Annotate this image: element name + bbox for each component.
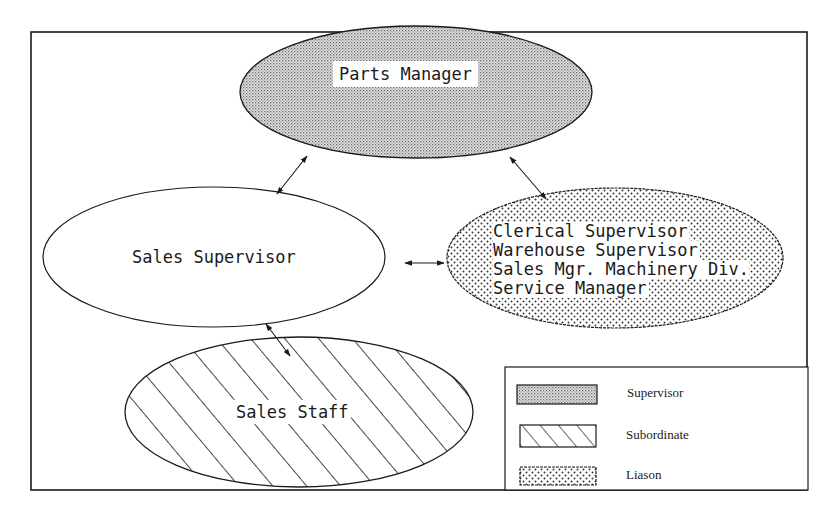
diagram-canvas: Parts Manager Sales Supervisor Clerical … [0,0,835,518]
parts-manager-label: Parts Manager [333,61,478,87]
parts-manager-node [240,26,592,158]
liaison-line-sales-mgr-machinery: Sales Mgr. Machinery Div. [493,260,749,279]
arrow-parts-manager-liaison [510,157,546,199]
arrow-parts-manager-sales-supervisor [277,156,307,194]
liaison-line-warehouse-supervisor: Warehouse Supervisor [493,241,700,260]
liaison-group-label: Clerical Supervisor Warehouse Supervisor… [493,222,749,298]
sales-supervisor-label: Sales Supervisor [132,247,296,267]
liaison-line-clerical-supervisor: Clerical Supervisor [493,222,689,241]
sales-staff-label: Sales Staff [234,400,351,424]
legend-swatch-supervisor [517,385,597,404]
legend-label-subordinate: Subordinate [626,427,689,443]
legend-label-supervisor: Supervisor [627,385,683,401]
legend-swatch-liason [520,467,596,485]
liaison-line-service-manager: Service Manager [493,279,649,298]
legend-swatch-subordinate [520,425,596,447]
legend-label-liason: Liason [626,467,661,483]
